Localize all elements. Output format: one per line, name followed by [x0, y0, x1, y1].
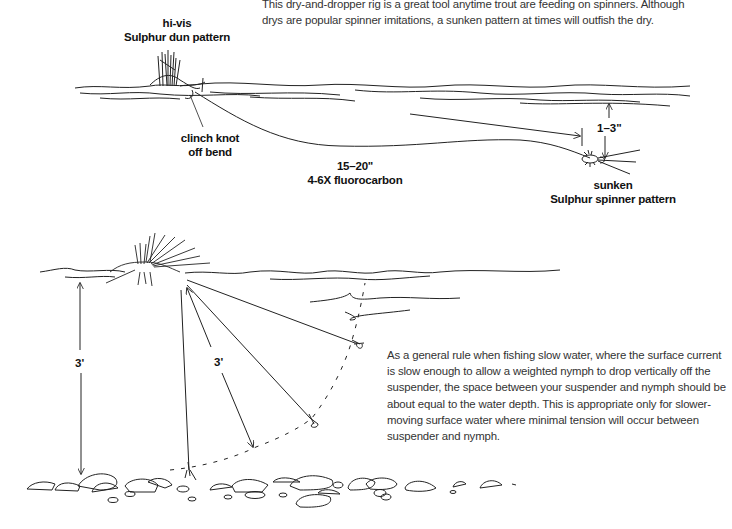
- dry-fly-icon: [150, 50, 205, 99]
- suspender-fly-icon: [106, 233, 210, 286]
- line-length-arrow-down: [222, 373, 253, 447]
- riverbed-rocks-icon: [27, 474, 516, 507]
- nymph-drift-arc: [170, 283, 365, 470]
- top-water-surface: [75, 83, 690, 106]
- vertical-nymph-line: [181, 290, 189, 470]
- nymph-icon: [185, 340, 364, 480]
- line-length-arrow-up: [187, 288, 211, 347]
- clinch-knot-pointer: [190, 95, 203, 127]
- diagram-illustration: [0, 0, 732, 529]
- bottom-water-surface: [40, 268, 560, 320]
- tippet-line: [195, 92, 590, 158]
- angled-nymph-line-1: [187, 285, 310, 418]
- tippet-length-arrow: [410, 114, 580, 136]
- angled-nymph-line-2: [187, 280, 355, 343]
- spinner-fly-icon: [582, 150, 640, 174]
